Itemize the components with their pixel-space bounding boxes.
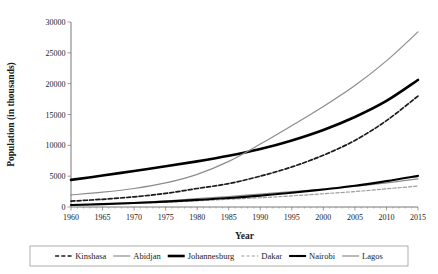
axis-lines	[71, 22, 418, 207]
y-axis-ticks: 050001000015000200002500030000	[46, 18, 72, 212]
y-tick-label: 0	[62, 203, 66, 212]
x-tick-label: 1995	[284, 213, 300, 222]
x-tick-label: 1975	[158, 213, 174, 222]
x-tick-label: 1970	[126, 213, 142, 222]
y-tick-label: 10000	[46, 141, 66, 150]
x-axis-ticks: 1960196519701975198019851990199520002005…	[63, 207, 426, 222]
y-axis-title-group: Population (in thousands)	[6, 62, 17, 167]
y-tick-label: 20000	[46, 80, 66, 89]
x-tick-label: 1965	[95, 213, 111, 222]
legend-label-johannesburg[interactable]: Johannesburg	[188, 251, 235, 261]
x-tick-label: 2005	[347, 213, 363, 222]
legend-label-nairobi[interactable]: Nairobi	[309, 251, 336, 261]
x-tick-label: 2010	[378, 213, 394, 222]
legend-label-kinshasa[interactable]: Kinshasa	[75, 251, 106, 261]
x-tick-label: 1980	[189, 213, 205, 222]
legend-label-lagos[interactable]: Lagos	[362, 251, 383, 261]
y-tick-label: 30000	[46, 18, 66, 27]
series-line-johannesburg	[71, 80, 418, 180]
series-lines	[71, 32, 418, 205]
x-tick-label: 2000	[315, 213, 331, 222]
x-tick-label: 1960	[63, 213, 79, 222]
x-tick-label: 1985	[221, 213, 237, 222]
y-tick-label: 25000	[46, 49, 66, 58]
series-line-abidjan	[71, 179, 418, 205]
y-tick-label: 5000	[50, 172, 66, 181]
x-axis-title-group: Year	[235, 231, 255, 241]
chart-legend: KinshasaAbidjanJohannesburgDakarNairobiL…	[30, 246, 408, 266]
population-line-chart: Population (in thousands) 05000100001500…	[0, 0, 438, 274]
x-tick-label: 2015	[410, 213, 426, 222]
series-line-lagos	[71, 32, 418, 195]
legend-label-dakar[interactable]: Dakar	[261, 251, 282, 261]
x-tick-label: 1990	[252, 213, 268, 222]
y-axis-title: Population (in thousands)	[6, 62, 17, 167]
x-axis-title: Year	[235, 231, 255, 241]
legend-label-abidjan[interactable]: Abidjan	[133, 251, 161, 261]
chart-figure: Population (in thousands) 05000100001500…	[0, 0, 438, 274]
y-tick-label: 15000	[46, 111, 66, 120]
